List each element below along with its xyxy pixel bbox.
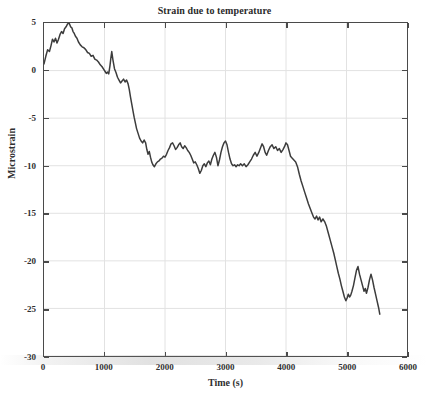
x-tick-label: 3000: [217, 362, 235, 372]
x-tick-label: 5000: [338, 362, 356, 372]
y-tick-mark-right: [402, 357, 407, 358]
x-tick-mark-top: [104, 23, 105, 28]
x-tick-mark-top: [226, 23, 227, 28]
y-tick-mark: [44, 357, 49, 358]
y-axis-label: Microstrain: [6, 99, 17, 209]
x-tick-mark-top: [43, 23, 44, 28]
y-tick-label: -30: [8, 352, 36, 362]
y-tick-label: -20: [8, 256, 36, 266]
x-tick-mark-top: [347, 23, 348, 28]
x-tick-label: 2000: [156, 362, 174, 372]
y-tick-mark-right: [402, 261, 407, 262]
x-tick-mark: [43, 352, 44, 357]
y-tick-mark-right: [402, 309, 407, 310]
y-tick-label: -25: [8, 304, 36, 314]
x-tick-label: 4000: [277, 362, 295, 372]
x-tick-label: 1000: [95, 362, 113, 372]
chart-title: Strain due to temperature: [0, 5, 429, 16]
y-tick-mark-right: [402, 22, 407, 23]
x-tick-mark-top: [408, 23, 409, 28]
y-tick-mark-right: [402, 70, 407, 71]
y-tick-mark: [44, 70, 49, 71]
y-tick-label: 0: [8, 65, 36, 75]
x-tick-mark: [347, 352, 348, 357]
x-tick-mark-top: [165, 23, 166, 28]
x-tick-mark-top: [286, 23, 287, 28]
y-tick-mark: [44, 309, 49, 310]
x-axis-label: Time (s): [43, 377, 408, 388]
y-tick-mark: [44, 261, 49, 262]
x-tick-mark: [165, 352, 166, 357]
y-tick-mark: [44, 118, 49, 119]
y-tick-mark: [44, 166, 49, 167]
x-tick-label: 0: [41, 362, 46, 372]
series-line: [44, 23, 380, 314]
y-tick-label: 5: [8, 17, 36, 27]
x-tick-label: 6000: [399, 362, 417, 372]
y-tick-mark: [44, 213, 49, 214]
y-tick-label: -15: [8, 208, 36, 218]
y-tick-mark-right: [402, 166, 407, 167]
y-tick-mark-right: [402, 118, 407, 119]
x-tick-mark: [226, 352, 227, 357]
data-series-layer: [44, 23, 407, 356]
y-tick-mark-right: [402, 213, 407, 214]
y-tick-mark: [44, 22, 49, 23]
x-tick-mark: [104, 352, 105, 357]
plot-area: [43, 22, 408, 357]
x-tick-mark: [286, 352, 287, 357]
x-tick-mark: [408, 352, 409, 357]
chart-figure: Strain due to temperature 50-5-10-15-20-…: [0, 0, 429, 403]
